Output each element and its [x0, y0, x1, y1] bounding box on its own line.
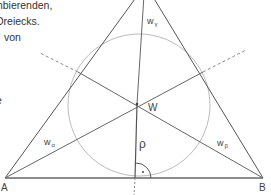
bisector-gamma	[137, 0, 144, 104]
label-inradius: ρ	[139, 137, 146, 151]
bisector-beta-extension	[40, 53, 78, 72]
label-bisector-beta: wβ	[216, 138, 229, 149]
bisector-alpha-extension	[203, 50, 246, 72]
side-ac	[5, 0, 140, 178]
bisector-beta	[78, 72, 263, 178]
right-angle-dot	[142, 171, 144, 173]
incenter-point	[136, 103, 139, 106]
bisector-alpha	[5, 72, 203, 178]
label-vertex-a: A	[1, 182, 8, 193]
inradius-line	[135, 104, 137, 178]
label-bisector-gamma: wγ	[146, 16, 158, 27]
label-bisector-alpha: wα	[43, 137, 56, 148]
label-vertex-b: B	[259, 182, 266, 193]
incircle-diagram: A B W ρ wα wβ wγ	[0, 0, 271, 195]
inradius-extension	[134, 178, 135, 195]
side-bc	[150, 0, 263, 178]
label-incenter: W	[148, 102, 158, 113]
